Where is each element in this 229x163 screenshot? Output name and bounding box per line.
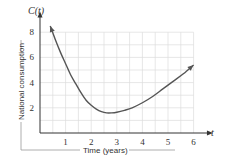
x-tick-label: 1 bbox=[63, 137, 68, 147]
curve-arrowheads bbox=[50, 26, 194, 71]
series-line-ct bbox=[50, 26, 193, 113]
y-tick-label: 8 bbox=[30, 27, 35, 37]
y-tick-label: 2 bbox=[30, 103, 35, 113]
curve-arrow-start bbox=[50, 26, 55, 33]
x-tick-label: 4 bbox=[140, 137, 145, 147]
y-axis-label: National consumption bbox=[17, 43, 26, 120]
x-tick-label: 6 bbox=[191, 137, 196, 147]
y-axis-name: C(t) bbox=[28, 5, 45, 17]
chart: 1234562468 C(t) t National consumption T… bbox=[0, 0, 229, 163]
x-axis-name: t bbox=[211, 127, 214, 138]
y-tick-label: 4 bbox=[30, 78, 35, 88]
x-axis-label: Time (years) bbox=[83, 146, 128, 155]
axes bbox=[38, 12, 213, 136]
tick-labels: 1234562468 bbox=[30, 27, 197, 147]
y-tick-label: 6 bbox=[30, 52, 35, 62]
x-tick-label: 5 bbox=[166, 137, 171, 147]
